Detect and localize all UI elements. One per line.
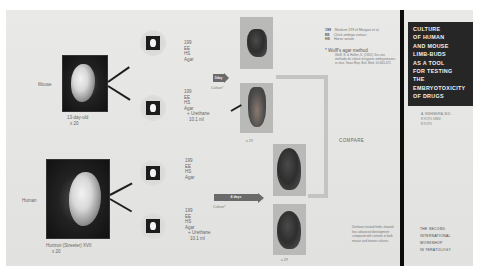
human-treated-limb-photo xyxy=(273,204,306,255)
mouse-upper-media: 199 EE HS Agar xyxy=(184,40,194,62)
human-culture-label: Culture* xyxy=(213,205,226,210)
mouse-control-limb-photo xyxy=(240,17,273,69)
workshop-info: THE SECOND INTERNATIONAL WORKSHOP IN TER… xyxy=(420,226,451,254)
human-lower-media: 199 EE HS Agar + Urethane 10.1 ml xyxy=(185,208,210,241)
mouse-label: Mouse xyxy=(38,82,52,88)
mouse-treated-limb-photo xyxy=(240,83,273,133)
abbreviation-legend: 199 Medium 199 of Morgan et al. EE Chick… xyxy=(325,28,397,65)
mouse-upper-bud xyxy=(140,30,166,56)
method-reference: Wolff, E. & Haffen, K. (1952): Sur une m… xyxy=(325,53,397,65)
human-embryo-photo xyxy=(46,159,110,239)
human-caption-stage: Horizon (Streeter) XVII xyxy=(46,243,92,249)
mouse-caption-age: 13-day-old xyxy=(67,115,88,121)
mouse-culture-arrow: 3day xyxy=(213,74,224,82)
legend-row: HS Horse serum xyxy=(325,37,397,42)
mouse-embryo-photo xyxy=(62,55,108,112)
mouse-lower-media: 199 EE HS Agar + Urethane 10.1 ml xyxy=(184,89,209,122)
human-caption-mag: x 20 xyxy=(52,249,61,255)
human-control-limb-photo xyxy=(273,144,306,196)
mouse-limb-mag: x 29 xyxy=(246,139,253,144)
arrow-head-icon xyxy=(224,73,229,83)
human-lower-bud xyxy=(140,213,166,239)
mouse-culture-label: Culture* xyxy=(211,86,224,91)
compare-bracket-vertical xyxy=(324,75,328,198)
human-label: Human xyxy=(22,198,37,204)
poster-title: CULTURE OF HUMAN AND MOUSE LIMB-BUDS AS … xyxy=(408,22,473,106)
mouse-caption-mag: x 20 xyxy=(70,121,79,127)
mouse-lower-bud xyxy=(140,95,166,121)
human-upper-media: 199 EE HS Agar xyxy=(185,158,195,180)
compare-label: COMPARE xyxy=(339,138,364,144)
compare-bracket-bottom xyxy=(308,194,328,198)
author-info: A. NISHIMURA, M.D. KYOTO UNIV. KYOTO xyxy=(421,112,451,127)
compare-bracket-top xyxy=(276,75,328,79)
arrow-head-icon xyxy=(258,193,264,203)
human-upper-bud xyxy=(140,160,166,186)
human-culture-arrow: 4 days xyxy=(214,194,258,201)
divider-bar xyxy=(400,10,404,266)
notes-text: Urethane treated limbs showed less advan… xyxy=(352,225,396,243)
human-limb-mag: x 29 xyxy=(281,258,288,263)
